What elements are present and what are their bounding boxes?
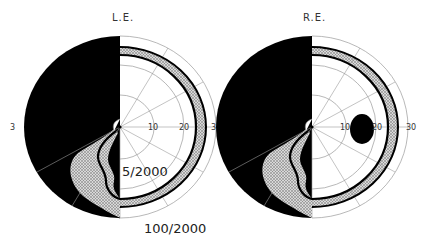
fixation-point	[118, 125, 121, 128]
fixation-point	[310, 125, 313, 128]
isopter-inner-label: 5/2000	[122, 164, 168, 179]
isopter-outer-label: 100/2000	[144, 221, 206, 236]
tick-20: 20	[372, 123, 382, 132]
tick-30: 30	[406, 123, 416, 132]
tick-left: 3	[10, 123, 15, 132]
tick-10: 10	[340, 123, 350, 132]
tick-20: 20	[179, 123, 189, 132]
right-eye-field: 10 20 30	[216, 36, 416, 218]
visual-field-charts: 10 20 3 3 10 20 30	[0, 0, 426, 245]
blind-spot	[350, 114, 374, 144]
tick-10: 10	[148, 123, 158, 132]
left-eye-field: 10 20 3 3	[10, 36, 216, 218]
tick-30: 3	[211, 123, 216, 132]
